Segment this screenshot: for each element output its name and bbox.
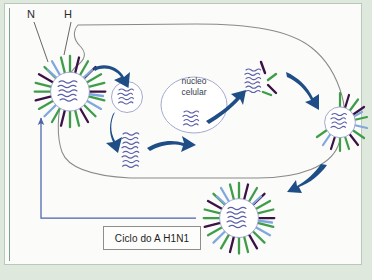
viral-synthesis-products xyxy=(245,62,276,95)
virion-released xyxy=(204,183,275,254)
nucleus-label-line2: celular xyxy=(163,87,225,98)
caption-box: Ciclo do A H1N1 xyxy=(103,226,201,250)
spike-label-n: N xyxy=(27,8,35,20)
new-surface-proteins xyxy=(261,62,276,95)
arrow-cytoplasm-to-nucleus xyxy=(147,136,196,152)
leader-line-h xyxy=(64,22,71,55)
virion-entry xyxy=(35,56,106,127)
spike-leader-lines xyxy=(34,22,71,62)
virion-budding xyxy=(317,93,367,151)
new-viral-rna xyxy=(245,69,261,93)
cytoplasmic-rna xyxy=(122,133,139,167)
arrow-endosome-to-cytoplasm xyxy=(106,112,122,153)
caption-text: Ciclo do A H1N1 xyxy=(115,233,189,244)
arrow-budding-to-released xyxy=(287,164,327,193)
figure-root: N H núcleo celular Ciclo do A H1N1 xyxy=(0,0,372,280)
nucleus-label: núcleo celular xyxy=(163,76,225,97)
nucleus-label-line1: núcleo xyxy=(163,76,225,87)
arrow-synthesis-to-budding xyxy=(286,72,319,110)
spike-label-h: H xyxy=(64,8,72,20)
arrow-released-to-entry xyxy=(41,118,196,218)
leader-line-n xyxy=(34,22,48,62)
